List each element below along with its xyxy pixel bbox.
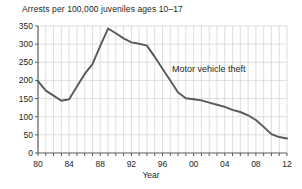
svg-text:04: 04 (220, 159, 230, 169)
svg-text:96: 96 (158, 159, 168, 169)
svg-text:08: 08 (251, 159, 261, 169)
svg-text:80: 80 (33, 159, 43, 169)
x-axis-tick-labels: 808488929600040812 (33, 159, 292, 169)
line-chart-plot: 050100150200250300350 808488929600040812… (0, 0, 302, 189)
svg-text:84: 84 (64, 159, 74, 169)
svg-text:300: 300 (19, 39, 33, 49)
svg-text:100: 100 (19, 112, 33, 122)
series-annotation-motor-vehicle-theft: Motor vehicle theft (172, 64, 246, 74)
svg-text:200: 200 (19, 75, 33, 85)
svg-text:0: 0 (28, 148, 33, 158)
svg-text:92: 92 (127, 159, 137, 169)
svg-text:350: 350 (19, 21, 33, 31)
svg-text:00: 00 (189, 159, 199, 169)
chart-container: Arrests per 100,000 juveniles ages 10–17… (0, 0, 302, 189)
svg-text:12: 12 (282, 159, 292, 169)
x-axis-title: Year (0, 170, 302, 180)
svg-text:88: 88 (96, 159, 106, 169)
y-axis-tick-labels: 050100150200250300350 (19, 21, 33, 158)
svg-text:50: 50 (24, 130, 34, 140)
svg-text:150: 150 (19, 94, 33, 104)
svg-text:250: 250 (19, 57, 33, 67)
